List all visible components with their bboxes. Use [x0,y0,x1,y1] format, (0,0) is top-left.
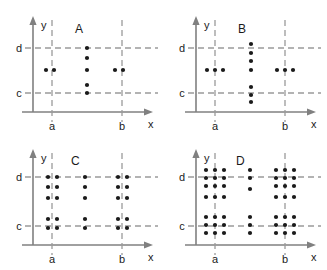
y-axis-arrow [192,16,199,25]
panel-b: y x d c a b B [163,0,326,135]
x-tick-a: a [212,253,219,265]
x-axis-label: x [311,118,317,130]
x-axis-label: x [148,251,154,263]
data-points [204,168,296,235]
x-axis-arrow [307,108,316,115]
panel-a: y x d c a b A [0,0,163,135]
data-points [44,46,125,95]
y-tick-c: c [16,220,22,232]
y-axis-arrow [192,149,199,158]
panel-label: B [238,22,246,36]
x-tick-b: b [282,120,288,132]
x-axis-arrow [144,108,153,115]
panel-label: D [236,154,245,168]
x-tick-a: a [49,253,56,265]
y-axis-label: y [41,152,47,164]
panel-c-plot: y x d c a b C [0,133,163,270]
x-axis-arrow [307,241,316,248]
y-tick-c: c [179,220,185,232]
x-tick-a: a [49,120,56,132]
x-tick-b: b [119,253,125,265]
y-tick-d: d [179,42,185,54]
y-axis-label: y [41,19,47,31]
scatter-panel-figure: y x d c a b A [0,0,327,270]
panel-a-plot: y x d c a b A [0,0,163,135]
panel-d: y x d c a b D [163,133,326,268]
y-axis-arrow [29,149,36,158]
panel-label: C [71,154,80,168]
x-axis-label: x [311,251,317,263]
x-axis-arrow [144,241,153,248]
y-tick-d: d [16,42,22,54]
x-tick-b: b [282,253,288,265]
panel-d-plot: y x d c a b D [163,133,327,270]
y-axis-label: y [204,152,210,164]
y-tick-c: c [179,87,185,99]
data-points [205,42,295,104]
panel-b-plot: y x d c a b B [163,0,327,135]
y-tick-c: c [16,87,22,99]
x-axis-label: x [148,118,154,130]
x-tick-a: a [212,120,219,132]
x-tick-b: b [119,120,125,132]
y-tick-d: d [16,171,22,183]
y-tick-d: d [179,171,185,183]
y-axis-arrow [29,16,36,25]
y-axis-label: y [204,19,210,31]
panel-c: y x d c a b C [0,133,163,268]
data-points [46,175,129,230]
panel-label: A [75,22,83,36]
